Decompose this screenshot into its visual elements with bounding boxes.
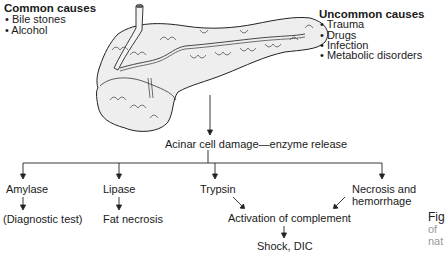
fat-necrosis-label: Fat necrosis <box>103 213 163 225</box>
acinar-damage-label: Acinar cell damage—enzyme release <box>165 138 347 150</box>
amylase-label: Amylase <box>6 183 48 195</box>
hemorrhage-label: hemorrhage <box>352 195 411 207</box>
trypsin-label: Trypsin <box>200 183 236 195</box>
common-cause-item: • Alcohol <box>5 25 47 37</box>
diagnostic-test-label: (Diagnostic test) <box>3 213 82 225</box>
figure-caption-text: nat <box>428 235 443 248</box>
shock-dic-label: Shock, DIC <box>257 240 313 252</box>
pancreas-illustration <box>97 4 328 131</box>
lipase-label: Lipase <box>103 183 135 195</box>
necrosis-label: Necrosis and <box>352 183 416 195</box>
uncommon-cause-item: • Metabolic disorders <box>320 50 422 62</box>
complement-label: Activation of complement <box>228 212 351 224</box>
